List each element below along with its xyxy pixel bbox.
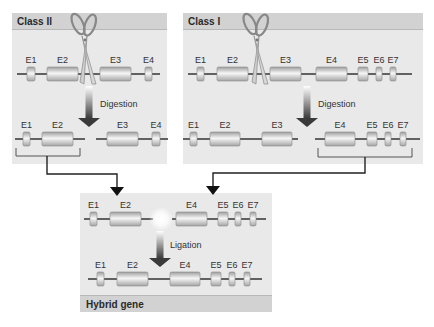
exon-label: E3 xyxy=(280,55,291,65)
exon-label: E3 xyxy=(110,55,121,65)
connector-lines xyxy=(16,148,412,196)
exon-label: E4 xyxy=(143,55,154,65)
arrowhead-icon xyxy=(110,187,124,196)
exon-label: E3 xyxy=(271,120,282,130)
exon-e2 xyxy=(42,132,73,146)
hybrid-ligation-arrow: Ligation xyxy=(149,231,202,267)
exon-label: E4 xyxy=(150,120,161,130)
gene-class2-frag-left: E1E2 xyxy=(15,120,85,146)
exon-label: E4 xyxy=(186,200,197,210)
gene-class1-intact: E1E2E3E4E5E6E7 xyxy=(188,55,412,81)
exon-label: E2 xyxy=(57,55,68,65)
gene-class1-frag-left: E1E2E3 xyxy=(183,120,298,146)
gene-hybrid-pre-left: E1E2 xyxy=(84,200,153,226)
exon-e5 xyxy=(218,212,228,226)
exon-e2 xyxy=(110,212,141,226)
exon-label: E6 xyxy=(226,260,237,270)
gene-rows: E1E2E3E4E1E2E3E4E1E2E3E4E5E6E7E1E2E3E4E5… xyxy=(15,55,420,286)
exon-label: E5 xyxy=(217,200,228,210)
exon-label: E4 xyxy=(334,120,345,130)
exon-label: E2 xyxy=(227,55,238,65)
exon-e6 xyxy=(376,67,382,81)
exon-e2 xyxy=(210,132,240,146)
exon-e7 xyxy=(390,67,396,81)
exon-e4 xyxy=(325,132,355,146)
exon-e7 xyxy=(250,212,256,226)
exon-label: E4 xyxy=(326,55,337,65)
gene-hybrid-final: E1E2E4E5E6E7 xyxy=(88,260,262,286)
class1-digestion-arrow: Digestion xyxy=(296,86,356,127)
exon-e7 xyxy=(400,132,406,146)
class2-bracket xyxy=(16,148,124,196)
exon-e3 xyxy=(100,67,131,81)
arrowhead-icon xyxy=(206,186,220,195)
exon-e2 xyxy=(217,67,248,81)
exon-label: E1 xyxy=(25,55,36,65)
exon-e1 xyxy=(190,132,197,146)
exon-label: E2 xyxy=(219,120,230,130)
exon-label: E7 xyxy=(387,55,398,65)
exon-label: E1 xyxy=(195,55,206,65)
exon-e4 xyxy=(170,272,200,286)
exon-e6 xyxy=(235,212,241,226)
exon-e3 xyxy=(270,67,301,81)
exon-label: E5 xyxy=(357,55,368,65)
exon-e5 xyxy=(367,132,377,146)
diagram-canvas: Class II Class I Hybrid gene E1E2E3E4E1E xyxy=(0,0,434,327)
exon-e1 xyxy=(90,212,97,226)
exon-e2 xyxy=(47,67,78,81)
exon-e4 xyxy=(152,132,160,146)
down-arrow-icon xyxy=(149,258,171,267)
exon-e6 xyxy=(229,272,235,286)
down-arrow-icon xyxy=(296,118,318,127)
exon-label: E1 xyxy=(188,120,199,130)
gene-class2-frag-right: E3E4 xyxy=(96,120,168,146)
exon-label: E2 xyxy=(127,260,138,270)
exon-label: E7 xyxy=(241,260,252,270)
exon-label: E2 xyxy=(52,120,63,130)
exon-e5 xyxy=(211,272,221,286)
exon-e3 xyxy=(262,132,292,146)
exon-label: E5 xyxy=(210,260,221,270)
exon-label: E4 xyxy=(179,260,190,270)
exon-e1 xyxy=(197,67,204,81)
step-label: Digestion xyxy=(100,99,138,109)
exon-label: E6 xyxy=(373,55,384,65)
gene-class1-frag-right: E4E5E6E7 xyxy=(315,120,420,146)
exon-e4 xyxy=(145,67,152,81)
exon-label: E3 xyxy=(117,120,128,130)
exon-e5 xyxy=(358,67,368,81)
exon-label: E1 xyxy=(21,120,32,130)
exon-e4 xyxy=(176,212,207,226)
exon-label: E6 xyxy=(382,120,393,130)
exon-e3 xyxy=(107,132,138,146)
exon-e1 xyxy=(23,132,30,146)
exon-label: E1 xyxy=(95,260,106,270)
exon-label: E2 xyxy=(120,200,131,210)
exon-e4 xyxy=(316,67,347,81)
exon-label: E1 xyxy=(88,200,99,210)
exon-label: E7 xyxy=(247,200,258,210)
process-arrows: DigestionDigestionLigation xyxy=(78,86,356,267)
ligation-glow xyxy=(149,207,173,231)
exon-e7 xyxy=(244,272,250,286)
exon-e1 xyxy=(97,272,104,286)
step-label: Ligation xyxy=(170,240,202,250)
exon-label: E5 xyxy=(366,120,377,130)
class2-digestion-arrow: Digestion xyxy=(78,86,138,127)
class1-bracket xyxy=(206,148,412,195)
gene-hybrid-pre-right: E4E5E6E7 xyxy=(172,200,266,226)
step-label: Digestion xyxy=(318,99,356,109)
exon-e1 xyxy=(27,67,35,81)
ligation-glow-spot xyxy=(149,207,173,231)
exon-e6 xyxy=(385,132,391,146)
down-arrow-icon xyxy=(78,118,100,127)
exon-e2 xyxy=(117,272,148,286)
exon-label: E7 xyxy=(397,120,408,130)
exon-label: E6 xyxy=(232,200,243,210)
gene-diagram: E1E2E3E4E1E2E3E4E1E2E3E4E5E6E7E1E2E3E4E5… xyxy=(0,0,434,327)
